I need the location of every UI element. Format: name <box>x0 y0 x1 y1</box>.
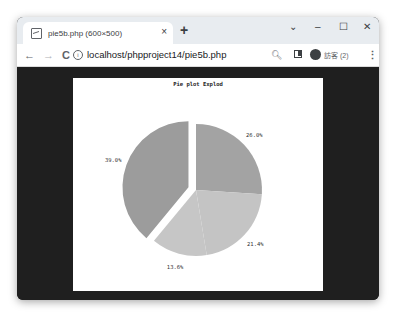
forward-icon[interactable]: → <box>43 48 54 62</box>
profile-avatar-icon[interactable] <box>310 49 321 60</box>
browser-toolbar: ← → C i localhost/phpproject14/pie5b.php… <box>17 44 379 67</box>
maximize-button[interactable]: ☐ <box>339 21 348 33</box>
reload-icon[interactable]: C <box>62 48 70 62</box>
side-panel-icon[interactable] <box>294 50 302 58</box>
pie-chart: Pie plot Explod26.0%21.4%13.6%39.0% <box>73 78 323 291</box>
new-tab-button[interactable]: + <box>180 23 188 37</box>
site-info-icon[interactable]: i <box>73 50 83 60</box>
browser-window: pie5b.php (600×500) × + ⌄ – ☐ ✕ ← → C i … <box>17 17 379 300</box>
minimize-button[interactable]: – <box>315 21 321 33</box>
menu-icon[interactable]: ⋮ <box>367 48 378 62</box>
image-favicon-icon <box>31 28 42 39</box>
pie-slice-label: 21.4% <box>247 241 264 247</box>
profile-label[interactable]: 訪客 (2) <box>324 50 349 60</box>
address-bar[interactable]: localhost/phpproject14/pie5b.php <box>87 48 226 62</box>
page-viewport: Pie plot Explod26.0%21.4%13.6%39.0% <box>17 67 379 300</box>
close-window-button[interactable]: ✕ <box>363 21 371 33</box>
zoom-icon[interactable]: 🔍︎ <box>271 48 282 62</box>
pie-slice-label: 26.0% <box>246 132 263 138</box>
tab-close-icon[interactable]: × <box>161 26 167 38</box>
back-icon[interactable]: ← <box>24 48 35 62</box>
chart-title: Pie plot Explod <box>173 81 223 88</box>
pie-slice-label: 39.0% <box>105 157 122 163</box>
tab-strip: pie5b.php (600×500) × + ⌄ – ☐ ✕ <box>17 17 379 44</box>
tab-title: pie5b.php (600×500) <box>48 29 122 38</box>
tab-search-dropdown-icon[interactable]: ⌄ <box>289 21 297 33</box>
tab-pie5b[interactable]: pie5b.php (600×500) × <box>23 22 173 44</box>
pie-chart-svg: Pie plot Explod26.0%21.4%13.6%39.0% <box>73 78 323 291</box>
pie-slice-label: 13.6% <box>167 264 184 270</box>
